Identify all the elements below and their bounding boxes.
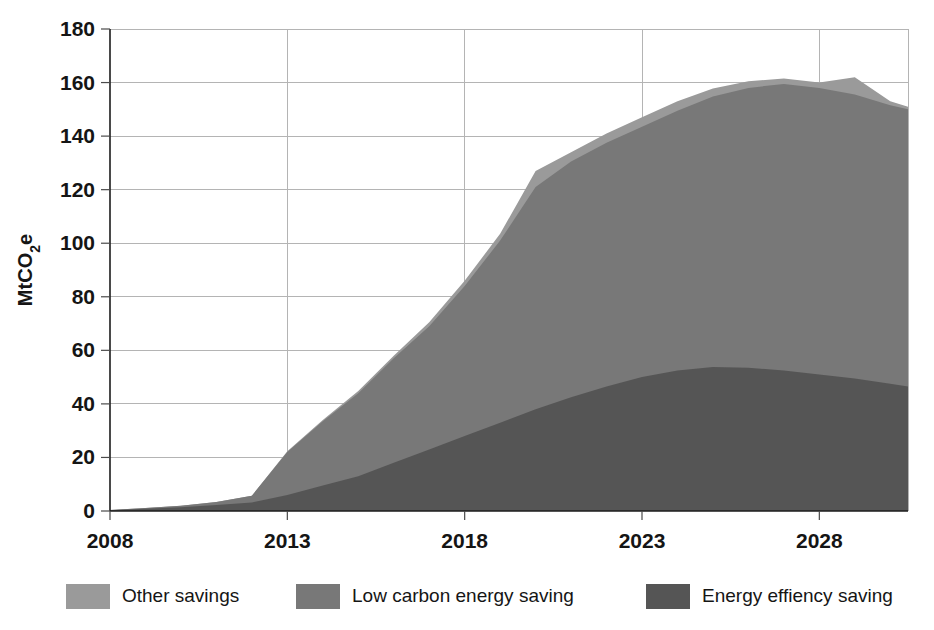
legend-swatch: [646, 584, 690, 609]
legend-swatch: [66, 584, 110, 609]
chart-legend: Other savingsLow carbon energy savingEne…: [66, 584, 893, 609]
y-tick-label: 140: [60, 124, 95, 147]
y-tick-label: 160: [60, 71, 95, 94]
legend-swatch: [296, 584, 340, 609]
x-tick-label: 2013: [264, 529, 311, 552]
legend-label: Energy effiency saving: [702, 585, 893, 606]
y-tick-label: 120: [60, 178, 95, 201]
x-tick-label: 2028: [796, 529, 843, 552]
chart-container: 020406080100120140160180 200820132018202…: [0, 0, 934, 630]
x-tick-label: 2008: [87, 529, 134, 552]
x-tick-label: 2018: [441, 529, 488, 552]
stacked-area-chart: 020406080100120140160180 200820132018202…: [0, 0, 934, 630]
x-tick-label: 2023: [619, 529, 666, 552]
y-tick-label: 0: [83, 499, 95, 522]
y-tick-label: 100: [60, 231, 95, 254]
y-tick-label: 80: [72, 285, 95, 308]
legend-label: Other savings: [122, 585, 239, 606]
y-tick-label: 60: [72, 338, 95, 361]
y-tick-label: 180: [60, 17, 95, 40]
legend-label: Low carbon energy saving: [352, 585, 574, 606]
y-tick-label: 20: [72, 445, 95, 468]
y-tick-label: 40: [72, 392, 95, 415]
